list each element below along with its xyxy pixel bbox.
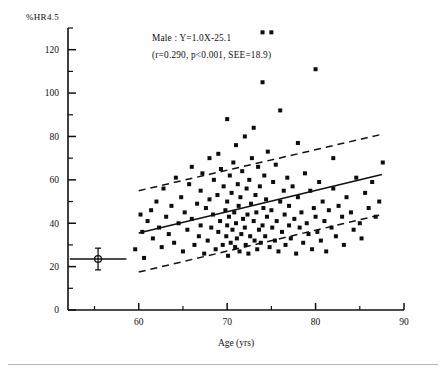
data-point <box>296 141 300 145</box>
data-point <box>200 171 204 175</box>
data-point <box>216 152 220 156</box>
data-point <box>244 243 248 247</box>
data-point <box>337 204 341 208</box>
data-point <box>231 160 235 164</box>
data-point <box>310 247 314 251</box>
data-point <box>301 241 305 245</box>
x-tick-label: 60 <box>134 317 144 327</box>
data-point <box>133 247 137 251</box>
data-point <box>261 80 265 84</box>
data-point <box>230 191 234 195</box>
data-point <box>187 182 191 186</box>
data-point <box>177 221 181 225</box>
x-tick-label: 80 <box>311 317 321 327</box>
data-point <box>214 247 218 251</box>
data-point <box>151 236 155 240</box>
data-point <box>312 206 316 210</box>
data-point <box>139 213 143 217</box>
data-point <box>292 217 296 221</box>
data-point <box>169 204 173 208</box>
upper-band <box>139 134 382 190</box>
data-point <box>322 219 326 223</box>
data-point <box>234 221 238 225</box>
data-point <box>282 189 286 193</box>
data-point <box>278 200 282 204</box>
data-point <box>255 247 259 251</box>
data-point <box>268 245 272 249</box>
data-point <box>354 176 358 180</box>
data-point <box>299 210 303 214</box>
data-point <box>209 226 213 230</box>
data-point <box>212 178 216 182</box>
data-point <box>345 195 349 199</box>
data-point <box>294 252 298 256</box>
data-point <box>319 239 323 243</box>
data-point <box>236 182 240 186</box>
data-point <box>352 228 356 232</box>
data-point <box>174 176 178 180</box>
data-point <box>274 163 278 167</box>
data-point <box>296 195 300 199</box>
data-point <box>195 202 199 206</box>
regression-annotation-1: Male : Y=1.0X-25.1 <box>152 33 231 43</box>
data-point <box>314 67 318 71</box>
data-point <box>269 208 273 212</box>
data-point <box>248 234 252 238</box>
data-point <box>190 217 194 221</box>
data-point <box>239 232 243 236</box>
data-point <box>179 195 183 199</box>
figure-container: 02040608010012060708090Age (yrs)%HR4.5Ma… <box>0 0 446 372</box>
data-point <box>199 223 203 227</box>
data-point <box>199 189 203 193</box>
data-point <box>287 223 291 227</box>
data-point <box>340 215 344 219</box>
data-point <box>315 230 319 234</box>
y-tick-label: 0 <box>54 305 59 315</box>
data-point <box>140 230 144 234</box>
data-point <box>287 204 291 208</box>
data-point <box>249 202 253 206</box>
data-point <box>238 249 242 253</box>
data-point <box>283 213 287 217</box>
data-point <box>276 249 280 253</box>
data-point <box>305 221 309 225</box>
data-point <box>232 210 236 214</box>
data-point <box>253 193 257 197</box>
data-point <box>246 252 250 256</box>
data-point <box>225 200 229 204</box>
data-point <box>228 174 232 178</box>
x-axis-title: Age (yrs) <box>218 338 254 349</box>
data-point <box>238 195 242 199</box>
data-point <box>254 210 258 214</box>
data-point <box>207 197 211 201</box>
y-tick-label: 80 <box>50 132 60 142</box>
data-point <box>237 204 241 208</box>
data-point <box>308 189 312 193</box>
data-point <box>324 249 328 253</box>
x-tick-label: 90 <box>399 317 409 327</box>
data-point <box>261 223 265 227</box>
data-point <box>164 215 168 219</box>
data-point <box>259 241 263 245</box>
data-point <box>370 180 374 184</box>
y-tick-label: 120 <box>45 45 60 55</box>
data-point <box>273 239 277 243</box>
data-point <box>183 210 187 214</box>
data-point <box>334 234 338 238</box>
data-point <box>230 228 234 232</box>
data-point <box>185 228 189 232</box>
data-point <box>349 210 353 214</box>
data-point <box>360 236 364 240</box>
data-point <box>218 219 222 223</box>
data-point <box>240 169 244 173</box>
data-point <box>221 243 225 247</box>
data-point <box>381 160 385 164</box>
mean-sd-marker <box>70 248 127 270</box>
data-point <box>225 223 229 227</box>
data-point <box>252 219 256 223</box>
data-point <box>278 108 282 112</box>
data-point <box>204 206 208 210</box>
data-point <box>263 234 267 238</box>
data-point <box>314 215 318 219</box>
data-point <box>146 219 150 223</box>
